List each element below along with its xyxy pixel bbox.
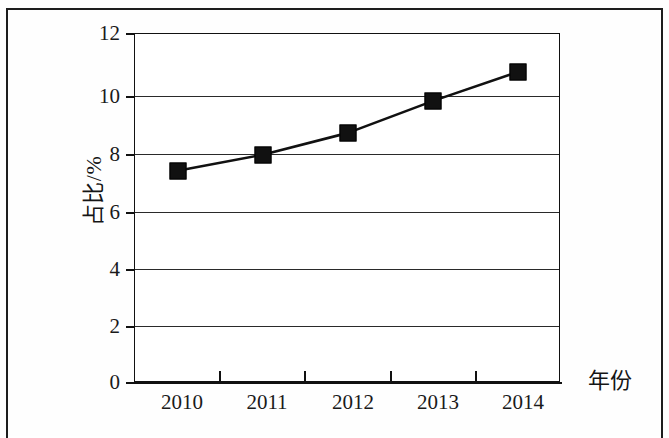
x-tick-mark-4 <box>475 371 477 382</box>
y-tick-label-6: 6 <box>80 202 120 223</box>
data-point-2014 <box>510 63 527 80</box>
data-point-2013 <box>425 92 442 109</box>
y-tick-label-12: 12 <box>80 23 120 44</box>
y-tick-label-8: 8 <box>80 144 120 165</box>
x-tick-label-2012: 2012 <box>313 392 393 413</box>
x-tick-mark-1 <box>219 371 221 382</box>
data-point-2010 <box>169 162 186 179</box>
x-tick-label-2011: 2011 <box>227 392 307 413</box>
x-tick-label-2014: 2014 <box>483 392 563 413</box>
gridline-4 <box>135 269 559 270</box>
gridline-8 <box>135 154 559 155</box>
x-axis-title: 年份 <box>588 362 632 394</box>
gridline-10 <box>135 96 559 97</box>
x-tick-mark-3 <box>390 371 392 382</box>
data-point-2012 <box>340 124 357 141</box>
gridline-6 <box>135 212 559 213</box>
x-axis-spine <box>132 382 562 384</box>
y-tick-label-2: 2 <box>80 316 120 337</box>
series-line <box>135 34 561 383</box>
x-tick-mark-2 <box>304 371 306 382</box>
gridline-2 <box>135 326 559 327</box>
data-point-2011 <box>254 146 271 163</box>
plot-area <box>134 33 560 382</box>
x-tick-label-2013: 2013 <box>398 392 478 413</box>
y-tick-label-0: 0 <box>80 372 120 393</box>
y-tick-label-4: 4 <box>80 259 120 280</box>
y-tick-label-10: 10 <box>80 86 120 107</box>
x-tick-label-2010: 2010 <box>142 392 222 413</box>
